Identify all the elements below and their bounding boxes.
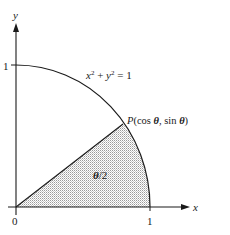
x-axis-arrow-icon (181, 204, 190, 210)
unit-circle-sector-diagram: y x 1 0 1 x2 + y2 = 1 P(cos θ, sin θ) θ/… (0, 0, 230, 235)
region-label: θ/2 (93, 169, 107, 181)
origin-label: 0 (12, 215, 18, 227)
shaded-sector (16, 124, 150, 207)
y-axis-arrow-icon (13, 23, 19, 32)
y-axis-label: y (12, 9, 18, 21)
x-tick-label: 1 (147, 215, 153, 227)
x-axis-label: x (192, 201, 198, 213)
curve-equation-label: x2 + y2 = 1 (85, 69, 132, 81)
y-tick-label: 1 (3, 60, 9, 72)
point-p-label: P(cos θ, sin θ) (126, 115, 189, 127)
